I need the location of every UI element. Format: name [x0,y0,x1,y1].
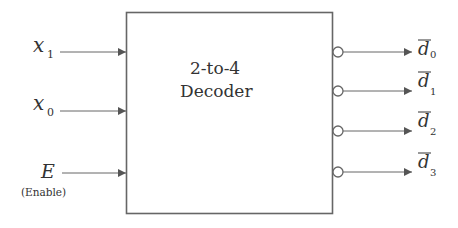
input-enable-note: (Enable) [21,186,66,198]
input-x0: x 0 [33,91,126,119]
decoder-diagram: 2-to-4 Decoder x 1 x 0 E (Enable) d 0 d … [0,0,458,228]
output-d2-label: d [418,110,430,131]
decoder-block [127,13,333,214]
input-x0-subscript: 0 [47,106,54,119]
block-title-line2: Decoder [180,81,253,101]
input-x1-subscript: 1 [47,48,54,61]
input-x1: x 1 [33,33,126,61]
output-d0-subscript: 0 [430,49,436,60]
output-d1: d 1 [333,70,436,97]
input-enable-label: E [40,160,55,182]
output-d3: d 3 [333,151,436,178]
output-d1-subscript: 1 [430,86,436,97]
output-d2-subscript: 2 [430,126,436,137]
input-x0-label: x [33,91,44,115]
output-d3-label: d [418,151,430,172]
inversion-bubble-d3 [333,167,343,177]
output-d0-label: d [418,38,430,59]
inversion-bubble-d1 [333,86,343,96]
output-d0: d 0 [333,38,436,60]
output-d1-label: d [418,70,430,91]
output-d3-subscript: 3 [430,167,436,178]
input-x1-label: x [33,33,44,57]
inversion-bubble-d0 [333,47,343,57]
inversion-bubble-d2 [333,126,343,136]
input-enable: E (Enable) [21,160,126,198]
block-title-line1: 2-to-4 [190,58,240,78]
output-d2: d 2 [333,110,436,137]
